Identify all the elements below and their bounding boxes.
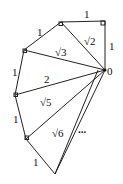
label-1-upper-left: 1: [37, 26, 43, 38]
continuation-ellipsis: ...: [78, 123, 87, 135]
label-sqrt6: √6: [52, 127, 64, 139]
spoke-2: [15, 70, 105, 95]
label-1-right: 1: [109, 40, 115, 52]
label-sqrt3: √3: [55, 46, 67, 58]
label-sqrt5: √5: [40, 96, 52, 108]
label-1-top: 1: [84, 8, 90, 20]
label-1-lower-left: 1: [13, 113, 19, 125]
spoke-sqrt2: [61, 22, 105, 70]
right-angle-mark: [101, 21, 105, 25]
origin-label: 0: [107, 65, 113, 77]
label-1-left: 1: [12, 66, 18, 78]
spiral-diagram: 0 1 1 1 1 1 1 √2 √3 2 √5 √6 ...: [0, 0, 123, 184]
spoke-sqrt5: [26, 70, 105, 139]
label-2: 2: [44, 73, 50, 85]
spoke-sqrt6: [55, 70, 105, 174]
label-sqrt2: √2: [84, 35, 96, 47]
label-1-bottom: 1: [33, 156, 39, 168]
